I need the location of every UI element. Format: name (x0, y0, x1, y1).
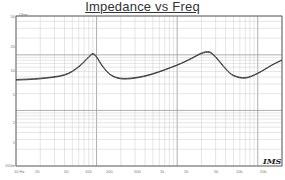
plot-frame (16, 16, 282, 166)
y-tick-label: 10 (11, 68, 15, 73)
y-tick-label: 2 (13, 120, 15, 125)
x-tick-label: 100 (85, 169, 92, 174)
x-tick-label: 200 (106, 169, 113, 174)
x-tick-label: 20k (260, 169, 266, 174)
y-tick-label: 20 (11, 44, 15, 49)
x-tick-label: 10 Hz (14, 169, 24, 174)
y-tick-label: 5 (13, 92, 15, 97)
y-tick-label: 50 (11, 14, 15, 19)
y-tick-label: 100m (5, 163, 15, 168)
x-tick-label: 5k (214, 169, 218, 174)
x-tick-label: 10k (236, 169, 242, 174)
x-tick-label: 1k (160, 169, 164, 174)
x-tick-label: 50 (64, 169, 68, 174)
impedance-plot (0, 0, 285, 180)
x-tick-label: 20 (35, 169, 39, 174)
y-tick-label: 1 (13, 140, 15, 145)
ims-logo: IMS (263, 156, 281, 166)
x-tick-label: 2k (184, 169, 188, 174)
x-tick-label: 500 (134, 169, 141, 174)
